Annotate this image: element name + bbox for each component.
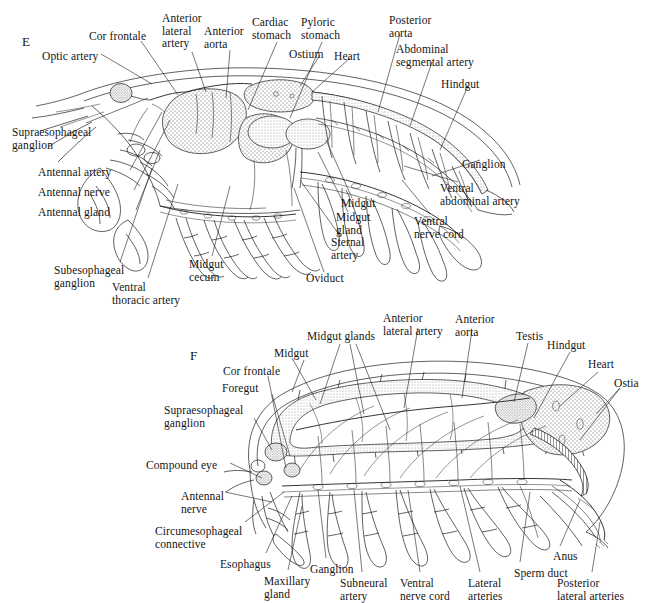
label-anus: Anus <box>553 550 578 563</box>
label-posterior-lateral-arteries: Posterior lateral arteries <box>557 577 624 602</box>
label-ventral-nerve-cord-f: Ventral nerve cord <box>400 577 450 602</box>
label-heart: Heart <box>334 50 360 63</box>
label-posterior-aorta: Posterior aorta <box>389 14 431 39</box>
label-anterior-lateral-artery-f: Anterior lateral artery <box>383 312 443 337</box>
label-pyloric-stomach: Pyloric stomach <box>301 16 340 41</box>
label-midgut-e: Midgut <box>341 197 375 210</box>
label-anterior-lateral-artery: Anterior lateral artery <box>162 12 202 50</box>
label-hindgut-e: Hindgut <box>441 78 479 91</box>
label-sternal-artery: Sternal artery <box>331 236 364 261</box>
panel-letter-e: E <box>22 34 30 50</box>
label-lateral-arteries: Lateral arteries <box>468 577 503 602</box>
panel-e-artwork <box>32 34 520 281</box>
label-ventral-nerve-cord-e: Ventral nerve cord <box>414 215 464 240</box>
panel-letter-f: F <box>190 348 197 364</box>
label-heart-f: Heart <box>588 358 614 371</box>
label-ganglion-e: Ganglion <box>462 158 506 171</box>
label-cardiac-stomach: Cardiac stomach <box>252 16 291 41</box>
label-cor-frontale-f: Cor frontale <box>223 365 280 378</box>
label-antennal-nerve-f: Antennal nerve <box>181 490 224 515</box>
label-compound-eye: Compound eye <box>146 459 217 472</box>
label-midgut-gland: Midgut gland <box>336 211 370 236</box>
ganglia-chain <box>313 479 527 489</box>
label-midgut-f: Midgut <box>274 347 308 360</box>
label-anterior-aorta: Anterior aorta <box>204 25 244 50</box>
label-anterior-aorta-f: Anterior aorta <box>455 313 495 338</box>
label-oviduct: Oviduct <box>306 272 344 285</box>
label-subneural-artery: Subneural artery <box>340 577 388 602</box>
label-optic-artery: Optic artery <box>42 50 98 63</box>
panel-f-artwork <box>224 328 624 572</box>
label-ostium: Ostium <box>289 48 323 61</box>
label-ganglion-f: Ganglion <box>310 563 354 576</box>
anatomical-figure: E F Optic artery Cor frontale Anterior l… <box>0 0 660 603</box>
label-maxillary-gland: Maxillary gland <box>264 575 310 600</box>
label-abdominal-segmental-artery: Abdominal segmental artery <box>396 43 474 68</box>
label-supraesophageal-ganglion-f: Supraesophageal ganglion <box>164 404 243 429</box>
label-ventral-abdominal-artery: Ventral abdominal artery <box>440 182 520 207</box>
label-ventral-thoracic-artery: Ventral thoracic artery <box>112 281 180 306</box>
label-midgut-cecum: Midgut cecum <box>189 258 223 283</box>
label-antennal-gland: Antennal gland <box>38 206 110 219</box>
label-ostia: Ostia <box>614 377 639 390</box>
label-foregut: Foregut <box>222 382 258 395</box>
label-circumesophageal-connective: Circumesophageal connective <box>155 525 242 550</box>
label-antennal-nerve-e: Antennal nerve <box>38 186 110 199</box>
label-esophagus: Esophagus <box>220 558 271 571</box>
label-testis: Testis <box>516 330 543 343</box>
label-cor-frontale: Cor frontale <box>89 30 146 43</box>
label-antennal-artery: Antennal artery <box>38 166 111 179</box>
label-midgut-glands: Midgut glands <box>307 330 375 343</box>
figure-artwork <box>0 0 660 603</box>
label-hindgut-f: Hindgut <box>547 339 585 352</box>
panel-f-leaders <box>225 328 620 572</box>
panel-e-leaders <box>86 34 480 278</box>
label-supraesophageal-ganglion-e: Supraesophageal ganglion <box>12 126 91 151</box>
